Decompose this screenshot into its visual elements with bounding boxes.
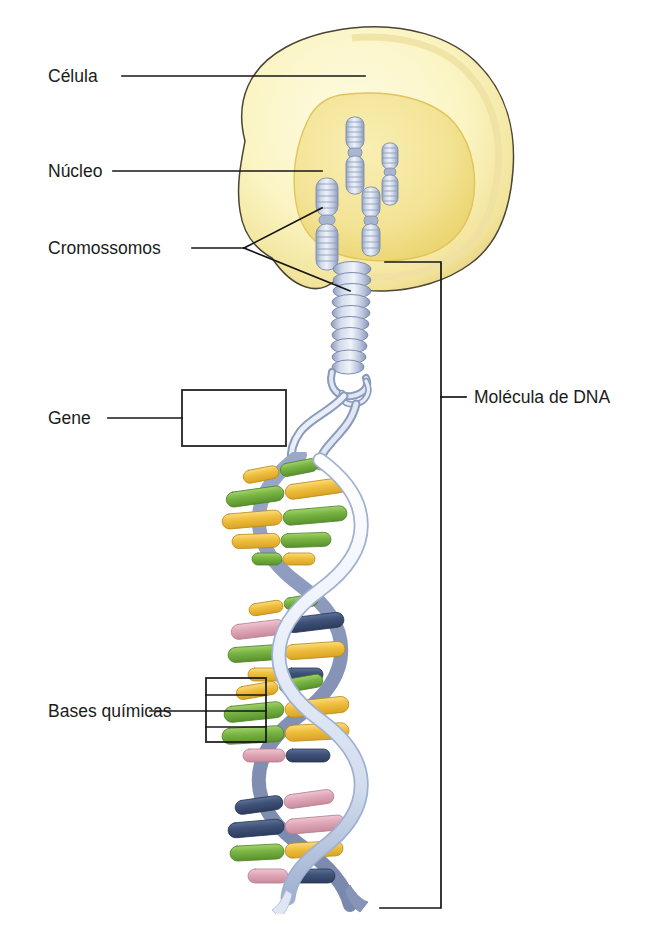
label-dna-molecule: Molécula de DNA — [474, 387, 610, 407]
base-pair — [243, 749, 330, 762]
base-pair — [225, 477, 348, 508]
dna-double-helix — [222, 455, 368, 918]
cell-to-dna-diagram: Célula Núcleo Cromossomos Gene Bases quí… — [0, 0, 669, 938]
leader-dna-molecule — [380, 262, 466, 908]
chromosome — [362, 187, 380, 256]
label-gene: Gene — [48, 408, 91, 428]
base-pair — [222, 505, 348, 529]
label-chemical-bases: Bases químicas — [48, 701, 172, 721]
base-pair — [232, 532, 331, 549]
label-nucleus: Núcleo — [48, 161, 102, 181]
label-chromosomes: Cromossomos — [48, 238, 161, 258]
chromatin-supercoil — [291, 262, 371, 467]
chromosome — [346, 117, 364, 194]
base-pair — [234, 789, 334, 816]
chromosome — [382, 143, 398, 205]
label-cell: Célula — [48, 66, 98, 86]
leader-gene — [108, 390, 286, 446]
